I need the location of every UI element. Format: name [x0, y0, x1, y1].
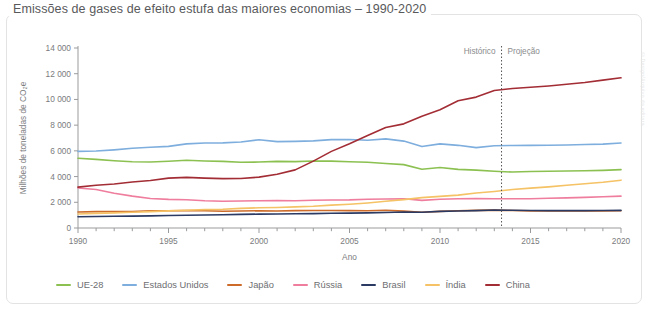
- legend-swatch-icon: [361, 284, 376, 287]
- legend-label: Índia: [446, 280, 466, 290]
- legend-item[interactable]: Rússia: [293, 280, 342, 290]
- annotation-historico: Histórico: [464, 47, 496, 56]
- annotation-projecao: Projeção: [508, 47, 541, 56]
- x-tick-label: 2000: [250, 236, 269, 246]
- y-axis-title: Milhões de toneladas de CO₂e: [18, 81, 28, 194]
- legend-swatch-icon: [227, 284, 242, 287]
- x-tick-label: 2015: [521, 236, 540, 246]
- series-line: [78, 180, 621, 214]
- y-tick-label: 6 000: [50, 146, 71, 156]
- legend-label: China: [506, 280, 530, 290]
- x-tick-label: 1990: [69, 236, 88, 246]
- x-tick-label: 2020: [612, 236, 631, 246]
- legend-swatch-icon: [485, 284, 500, 287]
- legend-item[interactable]: UE-28: [56, 280, 103, 290]
- y-tick-label: 12 000: [46, 69, 72, 79]
- y-tick-label: 2 000: [50, 197, 71, 207]
- legend-label: Rússia: [314, 280, 342, 290]
- series-line: [78, 158, 621, 172]
- legend-label: UE-28: [77, 280, 103, 290]
- x-axis-title: Ano: [342, 252, 357, 262]
- y-tick-label: 0: [66, 223, 71, 233]
- x-tick-label: 2005: [340, 236, 359, 246]
- legend-label: Estados Unidos: [143, 280, 208, 290]
- legend-item[interactable]: Brasil: [361, 280, 405, 290]
- legend-item[interactable]: Japão: [227, 280, 273, 290]
- chart-svg: 02 0004 0006 0008 00010 00012 00014 0001…: [0, 0, 649, 312]
- legend-item[interactable]: China: [485, 280, 530, 290]
- watermark-credit: ©Design/Arquivo da editora: [640, 52, 646, 126]
- legend-label: Japão: [248, 280, 273, 290]
- legend-swatch-icon: [293, 284, 308, 287]
- legend-swatch-icon: [425, 284, 440, 287]
- legend-swatch-icon: [122, 284, 137, 287]
- series-line: [78, 188, 621, 201]
- legend-item[interactable]: Estados Unidos: [122, 280, 208, 290]
- legend-item[interactable]: Índia: [425, 280, 466, 290]
- chart-legend: UE-28Estados UnidosJapãoRússiaBrasilÍndi…: [56, 276, 636, 294]
- legend-label: Brasil: [382, 280, 405, 290]
- y-tick-label: 8 000: [50, 120, 71, 130]
- y-tick-label: 4 000: [50, 172, 71, 182]
- series-line: [78, 139, 621, 151]
- chart-canvas: 02 0004 0006 0008 00010 00012 00014 0001…: [0, 0, 649, 312]
- legend-swatch-icon: [56, 284, 71, 287]
- y-tick-label: 10 000: [46, 94, 72, 104]
- y-tick-label: 14 000: [46, 43, 72, 53]
- x-tick-label: 2010: [431, 236, 450, 246]
- x-tick-label: 1995: [159, 236, 178, 246]
